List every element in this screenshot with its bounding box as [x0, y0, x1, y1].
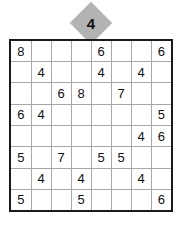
grid-cell-empty[interactable]	[91, 83, 111, 104]
grid-cell-empty[interactable]	[11, 168, 31, 189]
grid-cell-empty[interactable]	[91, 168, 111, 189]
grid-cell-empty[interactable]	[11, 83, 31, 104]
grid-cell-filled[interactable]: 4	[71, 168, 91, 189]
grid-cell-empty[interactable]	[71, 41, 91, 62]
grid-cell-empty[interactable]	[71, 62, 91, 83]
grid-cell-empty[interactable]	[71, 147, 91, 168]
grid-cell-filled[interactable]: 5	[91, 147, 111, 168]
grid-cell-filled[interactable]: 6	[151, 189, 171, 210]
grid-row: 46	[11, 125, 171, 146]
grid-row: 444	[11, 62, 171, 83]
grid-cell-filled[interactable]: 5	[111, 147, 131, 168]
grid-cell-empty[interactable]	[151, 147, 171, 168]
grid-row: 866	[11, 41, 171, 62]
grid-cell-empty[interactable]	[111, 125, 131, 146]
grid-row: 645	[11, 104, 171, 125]
grid-cell-empty[interactable]	[51, 62, 71, 83]
grid-row: 444	[11, 168, 171, 189]
grid-cell-empty[interactable]	[111, 168, 131, 189]
grid-cell-filled[interactable]: 4	[91, 62, 111, 83]
grid-cell-empty[interactable]	[11, 62, 31, 83]
grid-cell-filled[interactable]: 4	[31, 168, 51, 189]
grid-cell-filled[interactable]: 4	[131, 168, 151, 189]
puzzle-page: 4 866444687645465755444556	[0, 0, 181, 226]
grid-cell-filled[interactable]: 6	[151, 41, 171, 62]
grid-cell-empty[interactable]	[71, 125, 91, 146]
grid-cell-filled[interactable]: 8	[11, 41, 31, 62]
grid-cell-empty[interactable]	[131, 41, 151, 62]
grid-cell-empty[interactable]	[51, 104, 71, 125]
grid-cell-empty[interactable]	[31, 125, 51, 146]
grid-cell-empty[interactable]	[51, 168, 71, 189]
grid-cell-filled[interactable]: 7	[111, 83, 131, 104]
clue-badge-label: 4	[70, 2, 112, 44]
grid-cell-filled[interactable]: 6	[151, 125, 171, 146]
grid-cell-empty[interactable]	[151, 83, 171, 104]
grid-body: 866444687645465755444556	[11, 41, 171, 210]
grid-cell-empty[interactable]	[131, 189, 151, 210]
grid-cell-filled[interactable]: 7	[51, 147, 71, 168]
grid-cell-empty[interactable]	[131, 147, 151, 168]
grid-cell-filled[interactable]: 8	[71, 83, 91, 104]
grid-cell-filled[interactable]: 5	[11, 147, 31, 168]
grid-cell-empty[interactable]	[31, 41, 51, 62]
grid-cell-empty[interactable]	[51, 189, 71, 210]
grid-cell-filled[interactable]: 6	[91, 41, 111, 62]
grid-cell-empty[interactable]	[111, 104, 131, 125]
grid-row: 687	[11, 83, 171, 104]
grid-cell-empty[interactable]	[111, 189, 131, 210]
grid-row: 556	[11, 189, 171, 210]
grid-cell-empty[interactable]	[91, 125, 111, 146]
grid-cell-filled[interactable]: 4	[31, 62, 51, 83]
grid-cell-empty[interactable]	[151, 168, 171, 189]
clue-badge[interactable]: 4	[70, 2, 112, 44]
grid-table: 866444687645465755444556	[11, 41, 171, 210]
grid-cell-filled[interactable]: 6	[51, 83, 71, 104]
grid-cell-empty[interactable]	[51, 41, 71, 62]
grid-cell-empty[interactable]	[31, 147, 51, 168]
grid-cell-empty[interactable]	[111, 62, 131, 83]
grid-cell-empty[interactable]	[111, 41, 131, 62]
grid-cell-filled[interactable]: 5	[71, 189, 91, 210]
grid-cell-filled[interactable]: 5	[11, 189, 31, 210]
grid-cell-filled[interactable]: 6	[11, 104, 31, 125]
grid-cell-empty[interactable]	[91, 189, 111, 210]
grid-cell-empty[interactable]	[31, 189, 51, 210]
grid-cell-empty[interactable]	[11, 125, 31, 146]
grid-cell-empty[interactable]	[131, 104, 151, 125]
grid-cell-empty[interactable]	[91, 104, 111, 125]
grid-cell-empty[interactable]	[131, 83, 151, 104]
grid-cell-filled[interactable]: 4	[31, 104, 51, 125]
grid-cell-empty[interactable]	[31, 83, 51, 104]
puzzle-grid[interactable]: 866444687645465755444556	[9, 39, 173, 212]
grid-cell-empty[interactable]	[51, 125, 71, 146]
grid-row: 5755	[11, 147, 171, 168]
grid-cell-empty[interactable]	[151, 62, 171, 83]
grid-cell-filled[interactable]: 5	[151, 104, 171, 125]
grid-cell-filled[interactable]: 4	[131, 125, 151, 146]
grid-cell-empty[interactable]	[71, 104, 91, 125]
grid-cell-filled[interactable]: 4	[131, 62, 151, 83]
